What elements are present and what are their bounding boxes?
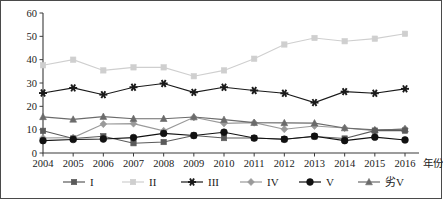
marker-circle bbox=[160, 130, 167, 137]
marker-square bbox=[402, 128, 407, 133]
chart-legend: IIIIIIIVV劣V bbox=[63, 175, 404, 188]
y-tick-label: 40 bbox=[27, 54, 38, 65]
marker-square bbox=[221, 135, 226, 140]
marker-circle bbox=[311, 133, 318, 140]
marker-circle bbox=[70, 136, 77, 143]
legend-label-V: V bbox=[326, 176, 334, 188]
legend-item-I[interactable]: I bbox=[63, 176, 94, 188]
marker-square bbox=[101, 68, 106, 73]
legend-item-IV[interactable]: IV bbox=[240, 176, 279, 188]
x-tick-label: 2010 bbox=[214, 158, 235, 169]
marker-square bbox=[402, 31, 407, 36]
marker-star bbox=[130, 84, 138, 91]
x-tick-label: 2006 bbox=[93, 158, 114, 169]
marker-square bbox=[131, 141, 136, 146]
chart-axes bbox=[43, 13, 419, 153]
marker-square bbox=[130, 179, 135, 184]
legend-item-V[interactable]: V bbox=[299, 176, 334, 188]
marker-circle bbox=[100, 136, 107, 143]
marker-star bbox=[341, 88, 349, 95]
marker-square bbox=[161, 139, 166, 144]
marker-circle bbox=[307, 179, 314, 186]
marker-square bbox=[372, 128, 377, 133]
legend-item-II[interactable]: II bbox=[122, 176, 157, 188]
series-II bbox=[40, 31, 407, 79]
marker-circle bbox=[130, 134, 137, 141]
marker-square bbox=[372, 36, 377, 41]
marker-circle bbox=[40, 137, 47, 144]
x-tick-label: 2007 bbox=[123, 158, 144, 169]
axis-lines bbox=[43, 13, 419, 153]
marker-star bbox=[250, 87, 258, 94]
marker-square bbox=[191, 74, 196, 79]
x-tick-label: 2005 bbox=[63, 158, 84, 169]
y-tick-label: 50 bbox=[27, 31, 38, 42]
legend-label-IV: IV bbox=[267, 176, 279, 188]
x-tick-label: 2009 bbox=[183, 158, 204, 169]
legend-item-III[interactable]: III bbox=[181, 176, 219, 188]
marker-triangle bbox=[40, 113, 47, 119]
x-tick-label: 2013 bbox=[304, 158, 325, 169]
y-tick-label: 30 bbox=[27, 78, 38, 89]
x-tick-label: 2014 bbox=[334, 158, 356, 169]
x-tick-label: 2011 bbox=[244, 158, 265, 169]
x-tick-label: 2016 bbox=[395, 158, 416, 169]
marker-circle bbox=[371, 134, 378, 141]
marker-square bbox=[312, 35, 317, 40]
marker-square bbox=[161, 65, 166, 70]
legend-item-劣V[interactable]: 劣V bbox=[358, 175, 404, 188]
x-tick-label: 2015 bbox=[364, 158, 385, 169]
marker-star bbox=[188, 179, 196, 186]
x-tick-label: 2004 bbox=[33, 158, 55, 169]
marker-star bbox=[371, 90, 379, 97]
x-axis-title: 年份 bbox=[423, 157, 443, 169]
y-tick-label: 20 bbox=[27, 101, 38, 112]
marker-square bbox=[71, 179, 76, 184]
marker-square bbox=[40, 63, 45, 68]
marker-square bbox=[70, 57, 75, 62]
y-tick-label: 0 bbox=[32, 148, 37, 159]
x-tick-label: 2008 bbox=[153, 158, 174, 169]
marker-circle bbox=[251, 135, 258, 142]
marker-star bbox=[401, 85, 409, 92]
marker-star bbox=[190, 89, 198, 96]
marker-circle bbox=[281, 136, 288, 143]
marker-circle bbox=[402, 137, 409, 144]
marker-circle bbox=[190, 132, 197, 139]
marker-star bbox=[220, 84, 228, 91]
marker-star bbox=[160, 80, 168, 87]
y-tick-label: 10 bbox=[27, 124, 38, 135]
marker-star bbox=[99, 91, 107, 98]
marker-square bbox=[40, 128, 45, 133]
marker-diamond bbox=[100, 120, 107, 127]
marker-square bbox=[131, 65, 136, 70]
y-axis-ticks: 0102030405060 bbox=[27, 8, 44, 159]
x-tick-label: 2012 bbox=[274, 158, 295, 169]
y-tick-label: 60 bbox=[27, 8, 38, 19]
marker-star bbox=[280, 90, 288, 97]
marker-diamond bbox=[248, 178, 255, 185]
marker-star bbox=[311, 99, 319, 106]
line-chart: 0102030405060200420052006200720082009201… bbox=[1, 1, 443, 200]
marker-square bbox=[221, 68, 226, 73]
marker-triangle bbox=[100, 113, 107, 119]
marker-star bbox=[69, 84, 77, 91]
marker-square bbox=[282, 42, 287, 47]
series-III bbox=[39, 80, 409, 106]
marker-circle bbox=[341, 137, 348, 144]
marker-square bbox=[342, 39, 347, 44]
legend-label-I: I bbox=[90, 176, 94, 188]
x-axis-ticks: 2004200520062007200820092010201120122013… bbox=[33, 153, 416, 169]
legend-label-劣V: 劣V bbox=[385, 175, 404, 188]
marker-square bbox=[251, 56, 256, 61]
marker-circle bbox=[221, 129, 228, 136]
legend-label-III: III bbox=[208, 176, 219, 188]
legend-label-II: II bbox=[149, 176, 157, 188]
marker-diamond bbox=[281, 126, 288, 133]
